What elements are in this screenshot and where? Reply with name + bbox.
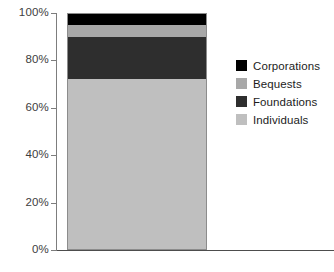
bar-segment-bequests — [67, 25, 207, 37]
y-axis-tick-label-wrap: 60% — [0, 102, 49, 114]
legend-label: Bequests — [253, 78, 302, 90]
y-axis-tick-label: 80% — [3, 54, 49, 65]
legend-swatch-icon — [236, 60, 247, 71]
y-axis-tick-mark — [51, 250, 57, 251]
y-axis-tick-label: 100% — [3, 7, 49, 18]
legend-item-individuals[interactable]: Individuals — [236, 111, 320, 128]
y-axis-tick-label-wrap: 80% — [0, 54, 49, 66]
y-axis-line — [56, 13, 57, 251]
y-axis-tick-label: 40% — [3, 149, 49, 160]
legend-item-foundations[interactable]: Foundations — [236, 93, 320, 110]
y-axis-tick-label: 60% — [3, 102, 49, 113]
legend-item-corporations[interactable]: Corporations — [236, 57, 320, 74]
y-axis-tick-mark — [51, 155, 57, 156]
y-axis-tick-label-wrap: 0% — [0, 244, 49, 256]
cropped-caption — [120, 266, 210, 272]
y-axis-tick-label-wrap: 100% — [0, 7, 49, 19]
legend-label: Foundations — [253, 96, 317, 108]
legend-swatch-icon — [236, 114, 247, 125]
bar-segment-individuals — [67, 79, 207, 250]
stacked-bar-chart: 100%80%60%40%20%0% CorporationsBequestsF… — [0, 0, 334, 272]
plot-area: 100%80%60%40%20%0% — [0, 0, 334, 272]
x-axis-line — [56, 250, 334, 251]
y-axis-tick-label-wrap: 40% — [0, 149, 49, 161]
y-axis-tick-mark — [51, 13, 57, 14]
legend-swatch-icon — [236, 78, 247, 89]
legend-label: Individuals — [253, 114, 308, 126]
legend-item-bequests[interactable]: Bequests — [236, 75, 320, 92]
y-axis-tick-mark — [51, 60, 57, 61]
legend-label: Corporations — [253, 60, 320, 72]
bar-segment-foundations — [67, 37, 207, 80]
y-axis-tick-label: 0% — [3, 244, 49, 255]
y-axis-tick-label: 20% — [3, 197, 49, 208]
y-axis-tick-label-wrap: 20% — [0, 197, 49, 209]
y-axis-tick-mark — [51, 108, 57, 109]
legend-swatch-icon — [236, 96, 247, 107]
y-axis-tick-mark — [51, 203, 57, 204]
legend: CorporationsBequestsFoundationsIndividua… — [236, 57, 320, 129]
bar-segment-corporations — [67, 13, 207, 25]
